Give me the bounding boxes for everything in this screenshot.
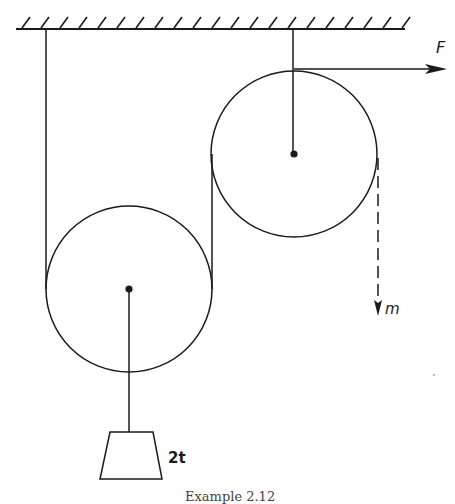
ceiling-hatch (345, 17, 353, 28)
ceiling-hatch (155, 17, 163, 28)
ceiling-hatch (402, 17, 410, 28)
ceiling-hatch (250, 17, 258, 28)
m-arrowhead-icon (374, 300, 382, 316)
ceiling-hatch (193, 17, 201, 28)
ceiling-hatch (22, 17, 30, 28)
ceiling-hatch (212, 17, 220, 28)
load-label: 2t (168, 449, 186, 467)
ceiling-hatch (288, 17, 296, 28)
speck (433, 374, 435, 376)
ceiling-hatch (307, 17, 315, 28)
ceiling-hatch (98, 17, 106, 28)
ceiling-hatch (231, 17, 239, 28)
ceiling (16, 17, 410, 29)
ceiling-hatch (41, 17, 49, 28)
ceiling-hatch (326, 17, 334, 28)
ceiling-hatch (269, 17, 277, 28)
upper-pulley-axle-icon (290, 150, 297, 157)
figure-caption: Example 2.12 (185, 489, 275, 504)
mass-path-label: m (385, 300, 400, 318)
ceiling-hatch (79, 17, 87, 28)
ceiling-hatch (364, 17, 372, 28)
ceiling-hatch (174, 17, 182, 28)
force-label: F (436, 38, 445, 57)
ceiling-hatch (383, 17, 391, 28)
ceiling-hatch (117, 17, 125, 28)
ceiling-hatch (136, 17, 144, 28)
load-weight (100, 432, 162, 479)
ceiling-hatch (60, 17, 68, 28)
